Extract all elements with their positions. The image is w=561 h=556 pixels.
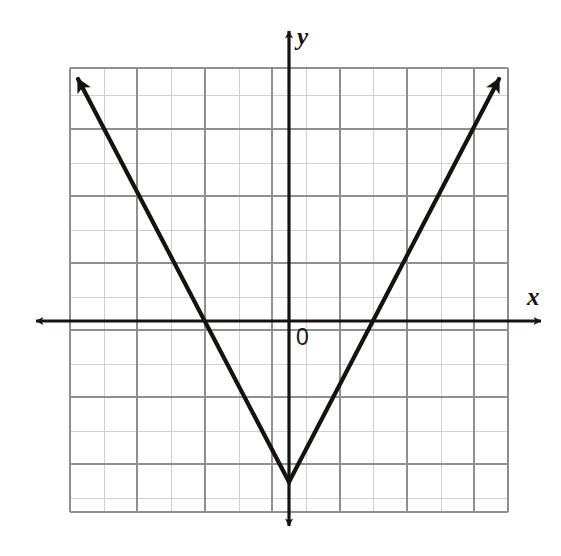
origin-label: 0 [296,326,309,349]
coordinate-plane-svg [0,0,561,556]
x-axis-label: x [527,284,540,309]
curve-right-branch [289,79,499,482]
graph-figure: y x 0 [0,0,561,556]
y-axis-label: y [297,24,308,49]
curve-left-branch [78,79,289,482]
